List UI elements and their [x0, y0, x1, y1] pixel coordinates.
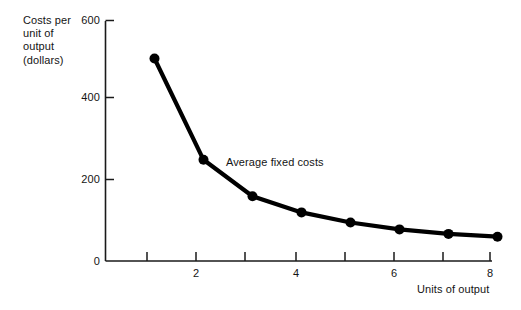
- y-axis-title-line-2: unit of: [23, 27, 54, 39]
- data-point-4: [297, 207, 307, 217]
- y-axis-title: Costs perunit ofoutput(dollars): [23, 14, 71, 67]
- data-point-1: [150, 54, 160, 64]
- x-tick-marks: [147, 252, 490, 261]
- y-tick-marks: [106, 21, 115, 180]
- x-tick-label-2: 2: [186, 267, 206, 279]
- y-tick-label-600: 600: [66, 14, 100, 26]
- average-fixed-costs-curve: [155, 59, 498, 237]
- y-tick-label-400: 400: [66, 91, 100, 103]
- y-axis-title-line-1: Costs per: [23, 14, 71, 26]
- data-point-8: [493, 232, 503, 242]
- data-point-markers: [150, 54, 503, 242]
- x-tick-label-4: 4: [286, 267, 306, 279]
- series-annotation-label: Average fixed costs: [226, 156, 324, 168]
- data-point-5: [346, 218, 356, 228]
- data-point-6: [395, 224, 405, 234]
- y-axis-title-line-3: output: [23, 40, 54, 52]
- chart-figure: Costs perunit ofoutput(dollars) 600 400 …: [0, 0, 521, 310]
- y-axis-title-line-4: (dollars): [23, 54, 64, 66]
- y-tick-label-200: 200: [66, 173, 100, 185]
- x-tick-label-6: 6: [384, 267, 404, 279]
- data-point-2: [199, 155, 209, 165]
- data-point-3: [248, 191, 258, 201]
- x-axis-title: Units of output: [417, 283, 489, 296]
- data-point-7: [444, 229, 454, 239]
- y-tick-label-0: 0: [66, 255, 100, 267]
- x-tick-label-8: 8: [480, 267, 500, 279]
